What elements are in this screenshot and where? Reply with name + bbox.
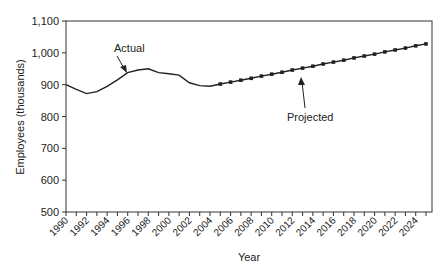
annotation-actual: Actual: [114, 42, 145, 54]
annotations: Actual Projected: [114, 42, 333, 123]
x-tick-label: 2018: [335, 214, 359, 238]
x-tick-label: 2014: [294, 214, 318, 238]
x-tick-label: 2002: [170, 214, 194, 238]
x-tick-label: 2022: [376, 214, 400, 238]
data-point-marker: [414, 44, 418, 48]
series-line-actual: [66, 69, 210, 94]
y-tick-label: 900: [41, 79, 59, 91]
x-axis: 1990199219941996199820002002200420062008…: [47, 212, 426, 238]
data-point-marker: [270, 72, 274, 76]
arrowhead-actual-icon: [120, 65, 127, 73]
x-tick-label: 2024: [397, 214, 421, 238]
data-point-marker: [249, 77, 253, 81]
x-tick-label: 1998: [129, 214, 153, 238]
data-point-marker: [332, 60, 336, 64]
y-axis-title: Employees (thousands): [14, 59, 26, 175]
x-tick-label: 2016: [314, 214, 338, 238]
data-point-marker: [239, 78, 243, 82]
data-point-marker: [352, 56, 356, 60]
data-point-marker: [260, 74, 264, 78]
x-tick-label: 2010: [253, 214, 277, 238]
y-tick-label: 500: [41, 206, 59, 218]
data-point-marker: [393, 48, 397, 52]
data-point-marker: [311, 64, 315, 68]
x-tick-label: 2008: [232, 214, 256, 238]
x-tick-label: 2000: [150, 214, 174, 238]
line-chart: 5006007008009001,0001,100 19901992199419…: [0, 0, 446, 274]
data-point-marker: [218, 82, 222, 86]
x-tick-label: 2020: [355, 214, 379, 238]
data-point-marker: [301, 66, 305, 70]
data-point-marker: [280, 70, 284, 74]
y-tick-label: 1,000: [31, 47, 59, 59]
x-tick-label: 1994: [88, 214, 112, 238]
y-tick-label: 600: [41, 174, 59, 186]
data-point-marker: [229, 80, 233, 84]
y-axis: 5006007008009001,0001,100: [31, 15, 66, 218]
arrow-projected: [302, 82, 305, 108]
data-point-marker: [290, 68, 294, 72]
y-tick-label: 1,100: [31, 15, 59, 27]
y-tick-label: 800: [41, 111, 59, 123]
x-tick-label: 2012: [273, 214, 297, 238]
data-point-marker: [383, 50, 387, 54]
x-axis-title: Year: [238, 251, 261, 263]
x-tick-label: 1996: [109, 214, 133, 238]
data-point-marker: [404, 46, 408, 50]
data-point-marker: [321, 62, 325, 66]
data-point-marker: [424, 42, 428, 46]
data-point-marker: [373, 52, 377, 56]
arrowhead-projected-icon: [298, 77, 305, 85]
y-tick-label: 700: [41, 142, 59, 154]
annotation-projected: Projected: [287, 111, 333, 123]
x-tick-label: 2006: [211, 214, 235, 238]
x-tick-label: 2004: [191, 214, 215, 238]
data-point-marker: [342, 58, 346, 62]
x-tick-label: 1992: [67, 214, 91, 238]
data-point-marker: [362, 54, 366, 58]
